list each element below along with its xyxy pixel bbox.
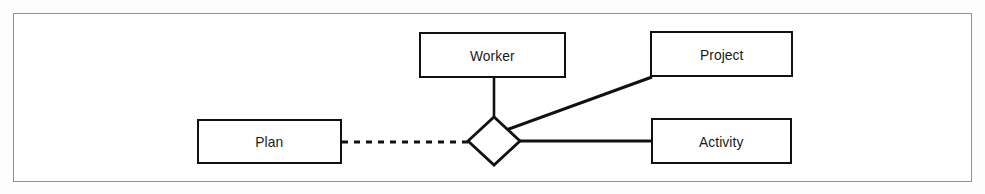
entity-project-label: Project (700, 47, 744, 62)
diagram-canvas (0, 0, 985, 194)
entity-worker: Worker (419, 32, 566, 78)
relationship-diamond (468, 117, 520, 165)
connector-relationship-to-project (506, 77, 652, 130)
figure-root: Worker Project Plan Activity (0, 0, 985, 194)
entity-plan: Plan (197, 119, 342, 164)
entity-activity: Activity (651, 118, 792, 164)
entity-project: Project (650, 31, 793, 77)
entity-worker-label: Worker (470, 48, 515, 63)
entity-activity-label: Activity (699, 134, 743, 149)
entity-plan-label: Plan (255, 134, 283, 149)
